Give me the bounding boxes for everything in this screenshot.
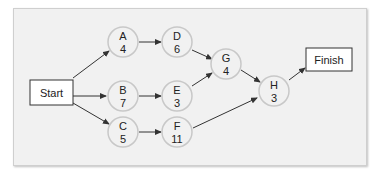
- finish-node: Finish: [306, 48, 352, 71]
- node-f-name: F: [174, 120, 181, 132]
- start-label: Start: [40, 87, 63, 99]
- node-d-duration: 6: [174, 43, 180, 55]
- node-b-duration: 7: [120, 97, 126, 109]
- edge-d-g: [192, 50, 212, 59]
- node-h-duration: 3: [271, 92, 277, 104]
- edge-start-c: [73, 103, 109, 124]
- finish-label: Finish: [314, 54, 343, 66]
- node-a-name: A: [119, 30, 127, 42]
- node-g-name: G: [222, 52, 231, 64]
- node-e-name: E: [173, 84, 180, 96]
- node-d-name: D: [173, 30, 181, 42]
- node-g-duration: 4: [223, 65, 229, 77]
- node-c-name: C: [119, 120, 127, 132]
- node-e-duration: 3: [174, 97, 180, 109]
- start-node: Start: [30, 80, 73, 105]
- node-c-duration: 5: [120, 133, 126, 145]
- edge-f-h: [193, 98, 257, 128]
- node-f-duration: 11: [171, 133, 182, 145]
- node-b-name: B: [119, 84, 126, 96]
- network-diagram: Start Finish A 4 B 7 C 5 D 6 E 3 F 11 G …: [0, 0, 380, 178]
- edge-e-g: [192, 73, 212, 86]
- node-h-name: H: [270, 79, 278, 91]
- node-a-duration: 4: [120, 43, 126, 55]
- edge-g-h: [241, 70, 260, 82]
- edge-h-finish: [289, 68, 305, 80]
- edge-start-a: [73, 51, 109, 78]
